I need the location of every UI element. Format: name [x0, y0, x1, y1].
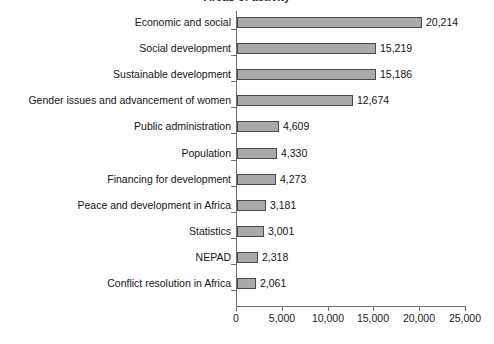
bar-row: Population4,330: [0, 147, 494, 163]
bar: [237, 174, 276, 185]
bar: [237, 43, 376, 54]
category-axis-tick: [231, 81, 236, 82]
category-axis-tick: [231, 55, 236, 56]
category-axis-line: [236, 306, 466, 307]
bar-value-label: 3,181: [270, 199, 296, 212]
category-label: Social development: [139, 42, 231, 55]
category-axis-tick: [231, 264, 236, 265]
bar-row: Sustainable development15,186: [0, 68, 494, 84]
category-axis-tick: [231, 107, 236, 108]
category-label: Statistics: [189, 225, 231, 238]
category-label: Gender issues and advancement of women: [28, 94, 231, 107]
x-axis-tick: [419, 307, 420, 311]
x-axis-tick: [373, 307, 374, 311]
bar: [237, 17, 422, 28]
bar-row: Conflict resolution in Africa2,061: [0, 277, 494, 293]
bar-row: Gender issues and advancement of women12…: [0, 94, 494, 110]
bar-row: Social development15,219: [0, 42, 494, 58]
plot-area: Economic and social20,214Social developm…: [0, 0, 494, 344]
category-label: NEPAD: [196, 251, 231, 264]
bar: [237, 69, 376, 80]
bar-value-label: 15,186: [380, 68, 412, 81]
x-axis-tick: [282, 307, 283, 311]
x-axis-tick-label: 25,000: [449, 312, 481, 324]
bar-value-label: 2,061: [260, 277, 286, 290]
category-label: Financing for development: [107, 173, 231, 186]
bar: [237, 252, 258, 263]
bar: [237, 121, 279, 132]
category-axis-tick: [231, 186, 236, 187]
category-label: Peace and development in Africa: [77, 199, 231, 212]
bar-value-label: 4,273: [280, 173, 306, 186]
x-axis-tick: [465, 307, 466, 311]
bar: [237, 95, 353, 106]
bar: [237, 148, 277, 159]
category-axis-tick: [231, 29, 236, 30]
bar-row: Financing for development4,273: [0, 173, 494, 189]
category-label: Economic and social: [135, 16, 231, 29]
x-axis-tick-label: 10,000: [312, 312, 344, 324]
bar-value-label: 2,318: [262, 251, 288, 264]
x-axis-tick-label: 0: [233, 312, 239, 324]
category-axis-tick: [231, 133, 236, 134]
bar-value-label: 4,609: [283, 120, 309, 133]
bar-row: Public administration4,609: [0, 120, 494, 136]
category-axis-tick: [231, 290, 236, 291]
bar-row: Economic and social20,214: [0, 16, 494, 32]
category-label: Population: [181, 147, 231, 160]
category-axis-tick: [231, 160, 236, 161]
x-axis-tick-label: 20,000: [403, 312, 435, 324]
category-axis-tick: [231, 238, 236, 239]
bar-value-label: 20,214: [426, 16, 458, 29]
bar-row: NEPAD2,318: [0, 251, 494, 267]
bar-value-label: 3,001: [268, 225, 294, 238]
category-label: Sustainable development: [113, 68, 231, 81]
category-axis-tick: [231, 212, 236, 213]
bar: [237, 226, 264, 237]
bar: [237, 278, 256, 289]
bar-row: Statistics3,001: [0, 225, 494, 241]
x-axis-tick-label: 15,000: [357, 312, 389, 324]
bar-value-label: 4,330: [281, 147, 307, 160]
bar: [237, 200, 266, 211]
x-axis-tick: [328, 307, 329, 311]
x-axis-tick: [236, 307, 237, 311]
bar-chart: Areas of activity Economic and social20,…: [0, 0, 494, 344]
bar-row: Peace and development in Africa3,181: [0, 199, 494, 215]
category-label: Conflict resolution in Africa: [107, 277, 231, 290]
category-label: Public administration: [134, 120, 231, 133]
bar-value-label: 15,219: [380, 42, 412, 55]
bar-value-label: 12,674: [357, 94, 389, 107]
x-axis-tick-label: 5,000: [269, 312, 295, 324]
